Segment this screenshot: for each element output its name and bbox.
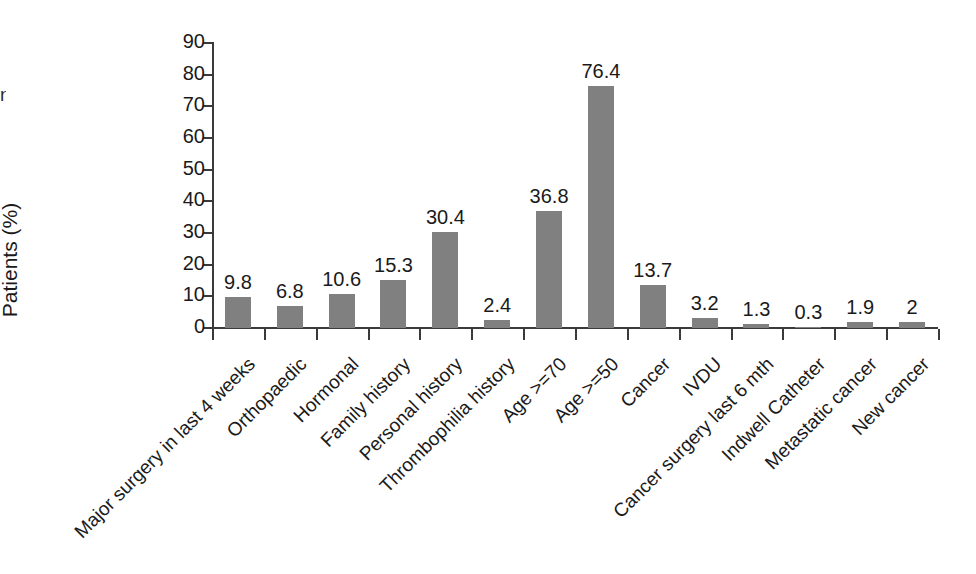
x-axis-tick xyxy=(731,329,733,340)
x-axis-tick xyxy=(368,329,370,340)
x-axis-tick xyxy=(834,329,836,340)
x-axis-category-label: Major surgery in last 4 weeks xyxy=(70,353,260,543)
x-axis-tick xyxy=(938,329,940,340)
x-axis-tick xyxy=(316,329,318,340)
x-axis-tick xyxy=(782,329,784,340)
x-axis-tick xyxy=(523,329,525,340)
x-axis-labels: Major surgery in last 4 weeksOrthopaedic… xyxy=(0,0,976,574)
x-axis-tick xyxy=(886,329,888,340)
x-axis-tick xyxy=(471,329,473,340)
x-axis-tick xyxy=(679,329,681,340)
x-axis-category-label: Cancer xyxy=(616,353,675,412)
x-axis-tick xyxy=(419,329,421,340)
x-axis-tick xyxy=(212,329,214,340)
x-axis-category-label: IVDU xyxy=(679,353,727,401)
x-axis-tick xyxy=(627,329,629,340)
chart-page: n Patients (%) 0102030405060708090 9.86.… xyxy=(0,0,976,574)
x-axis-tick xyxy=(575,329,577,340)
x-axis-tick xyxy=(264,329,266,340)
